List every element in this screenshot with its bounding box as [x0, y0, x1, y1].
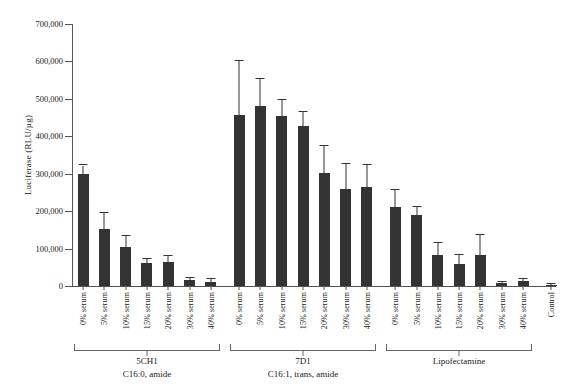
- x-tick: [345, 286, 346, 290]
- x-axis-label: 5% serum: [100, 292, 109, 325]
- error-bar: [345, 164, 346, 189]
- x-axis-label: 0% serum: [391, 292, 400, 325]
- error-bar: [210, 279, 211, 281]
- error-bar: [437, 243, 438, 255]
- x-tick: [303, 286, 304, 290]
- x-axis-label: 15% serum: [143, 292, 152, 329]
- error-bar-cap: [185, 277, 194, 278]
- error-bar-cap: [142, 258, 151, 259]
- x-axis-label: 20% serum: [164, 292, 173, 329]
- x-axis-label: 20% serum: [476, 292, 485, 329]
- group-sublabel: C16:1, trans, amide: [268, 369, 339, 379]
- y-tick-label: 400,000: [35, 131, 70, 141]
- x-tick: [437, 286, 438, 290]
- error-bar-cap: [256, 78, 265, 79]
- y-axis-line: [72, 24, 73, 287]
- y-tick-label: 200,000: [35, 206, 70, 216]
- group-sublabel: C16:0, amide: [123, 369, 172, 379]
- x-tick: [395, 286, 396, 290]
- x-tick: [551, 286, 552, 290]
- bar: [432, 255, 443, 286]
- bar: [141, 263, 152, 286]
- error-bar-cap: [121, 235, 130, 236]
- bar: [361, 187, 372, 286]
- x-tick: [210, 286, 211, 290]
- x-tick: [480, 286, 481, 290]
- x-tick: [501, 286, 502, 290]
- bar: [319, 173, 330, 286]
- y-tick-label: 600,000: [35, 56, 70, 66]
- error-bar: [551, 284, 552, 285]
- x-axis-label: 20% serum: [320, 292, 329, 329]
- error-bar-cap: [391, 189, 400, 190]
- x-tick: [260, 286, 261, 290]
- bar: [163, 262, 174, 286]
- error-bar: [168, 256, 169, 262]
- x-axis-label: 5% serum: [256, 292, 265, 325]
- x-axis-label: 40% serum: [207, 292, 216, 329]
- x-axis-label: 0% serum: [79, 292, 88, 325]
- y-tick-label: 300,000: [35, 169, 70, 179]
- group-label: 5CH1: [136, 356, 158, 366]
- y-tick-label: 500,000: [35, 94, 70, 104]
- error-bar-cap: [299, 111, 308, 112]
- error-bar-cap: [476, 234, 485, 235]
- error-bar: [523, 279, 524, 281]
- error-bar: [83, 166, 84, 174]
- y-tick-label: 100,000: [35, 244, 70, 254]
- error-bar-cap: [206, 278, 215, 279]
- bar: [99, 229, 110, 286]
- x-tick: [523, 286, 524, 290]
- bar: [454, 264, 465, 286]
- x-axis-line: [72, 286, 556, 287]
- x-axis-label: Control: [547, 292, 556, 317]
- x-tick: [83, 286, 84, 290]
- bar: [276, 116, 287, 286]
- error-bar-cap: [79, 164, 88, 165]
- group-label: 7D1: [295, 356, 311, 366]
- error-bar-cap: [277, 99, 286, 100]
- x-axis-label: 15% serum: [455, 292, 464, 329]
- y-tick-label: 0: [59, 281, 70, 291]
- error-bar: [260, 79, 261, 106]
- error-bar: [239, 61, 240, 114]
- error-bar: [281, 100, 282, 116]
- x-axis-label: 30% serum: [498, 292, 507, 329]
- error-bar: [416, 207, 417, 215]
- x-tick: [125, 286, 126, 290]
- x-tick: [104, 286, 105, 290]
- error-bar: [395, 190, 396, 207]
- bar: [120, 247, 131, 286]
- x-axis-label: 10% serum: [122, 292, 131, 329]
- group-bracket: [74, 344, 220, 351]
- x-axis-label: 5% serum: [413, 292, 422, 325]
- x-tick: [168, 286, 169, 290]
- error-bar: [366, 165, 367, 187]
- error-bar-cap: [100, 212, 109, 213]
- x-axis-label: 0% serum: [235, 292, 244, 325]
- error-bar: [480, 235, 481, 255]
- bar: [411, 215, 422, 286]
- error-bar-cap: [341, 163, 350, 164]
- error-bar-cap: [320, 145, 329, 146]
- plot-area: 700,000600,000500,000400,000300,000200,0…: [72, 24, 556, 286]
- x-tick: [239, 286, 240, 290]
- x-axis-label: 40% serum: [519, 292, 528, 329]
- x-tick: [416, 286, 417, 290]
- x-axis-label: 40% serum: [363, 292, 372, 329]
- x-axis-label: 30% serum: [186, 292, 195, 329]
- bar: [390, 207, 401, 286]
- bar: [255, 106, 266, 286]
- x-tick: [146, 286, 147, 290]
- error-bar: [324, 146, 325, 173]
- error-bar-cap: [433, 242, 442, 243]
- x-tick: [324, 286, 325, 290]
- error-bar-cap: [164, 255, 173, 256]
- bar: [234, 115, 245, 286]
- group-bracket: [386, 344, 532, 351]
- error-bar-cap: [547, 283, 556, 284]
- error-bar: [189, 278, 190, 280]
- error-bar-cap: [455, 254, 464, 255]
- x-axis-label: 15% serum: [299, 292, 308, 329]
- group-label: Lipofectamine: [433, 356, 485, 366]
